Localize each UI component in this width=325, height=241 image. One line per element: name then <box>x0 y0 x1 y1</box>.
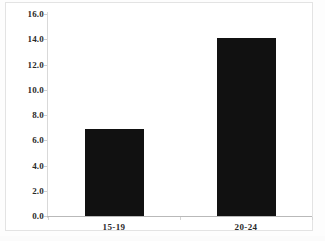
y-tick-label: 16.0 <box>0 10 44 19</box>
x-tick-mark <box>180 217 181 220</box>
x-tick-mark <box>312 217 313 220</box>
y-tick-label: 8.0 <box>0 111 44 120</box>
y-tick-mark <box>44 191 47 192</box>
bar <box>85 129 144 216</box>
bar <box>217 38 276 216</box>
y-tick-mark <box>44 166 47 167</box>
x-tick-label: 20-24 <box>235 222 258 232</box>
y-tick-mark <box>44 14 47 15</box>
y-tick-mark <box>44 65 47 66</box>
plot-area <box>48 14 312 216</box>
y-tick-mark <box>44 140 47 141</box>
y-tick-mark <box>44 90 47 91</box>
y-tick-mark <box>44 115 47 116</box>
x-tick-mark <box>48 217 49 220</box>
y-tick-label: 6.0 <box>0 136 44 145</box>
x-tick-label: 15-19 <box>103 222 126 232</box>
y-tick-label: 14.0 <box>0 35 44 44</box>
chart-page: 0.02.04.06.08.010.012.014.016.0 15-1920-… <box>0 0 325 241</box>
scan-edge-band <box>0 236 325 241</box>
y-tick-label: 0.0 <box>0 212 44 221</box>
y-tick-mark <box>44 39 47 40</box>
y-tick-label: 12.0 <box>0 60 44 69</box>
y-tick-label: 4.0 <box>0 161 44 170</box>
y-axis-tick-labels: 0.02.04.06.08.010.012.014.016.0 <box>0 0 44 241</box>
y-tick-label: 2.0 <box>0 186 44 195</box>
y-tick-mark <box>44 216 47 217</box>
y-tick-label: 10.0 <box>0 85 44 94</box>
